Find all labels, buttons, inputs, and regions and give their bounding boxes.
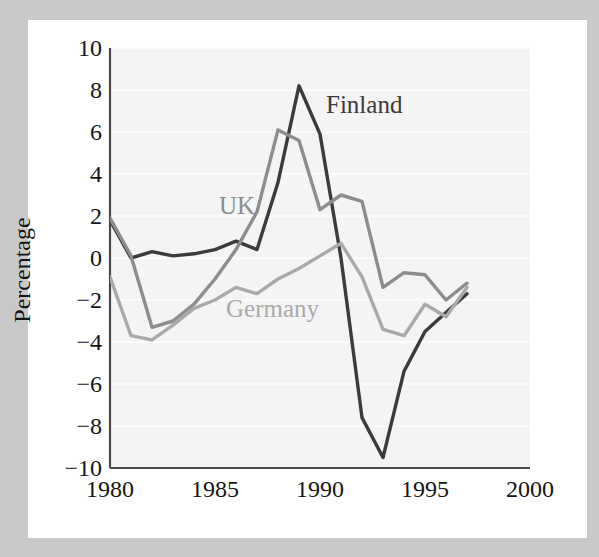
y-tick-label: −8 (58, 413, 102, 440)
y-tick-label: −4 (58, 329, 102, 356)
y-tick-label: 6 (58, 119, 102, 146)
y-tick-label: −2 (58, 287, 102, 314)
y-tick-label: 0 (58, 245, 102, 272)
y-tick-label: 10 (58, 35, 102, 62)
line-chart-figure: 1086420−2−4−6−8−10 19801985199019952000 … (0, 0, 599, 557)
x-tick-label: 1980 (86, 476, 134, 503)
y-tick-label: 4 (58, 161, 102, 188)
y-tick-label: 2 (58, 203, 102, 230)
series-label-germany: Germany (226, 295, 319, 323)
x-tick-label: 2000 (506, 476, 554, 503)
y-tick-label: −6 (58, 371, 102, 398)
x-tick-label: 1990 (296, 476, 344, 503)
x-tick-label: 1995 (401, 476, 449, 503)
y-tick-label: 8 (58, 77, 102, 104)
series-label-finland: Finland (326, 91, 402, 119)
y-axis-title: Percentage (9, 217, 36, 322)
chart-page: 1086420−2−4−6−8−10 19801985199019952000 … (0, 0, 599, 557)
x-tick-label: 1985 (191, 476, 239, 503)
series-label-uk: UK (219, 192, 255, 220)
